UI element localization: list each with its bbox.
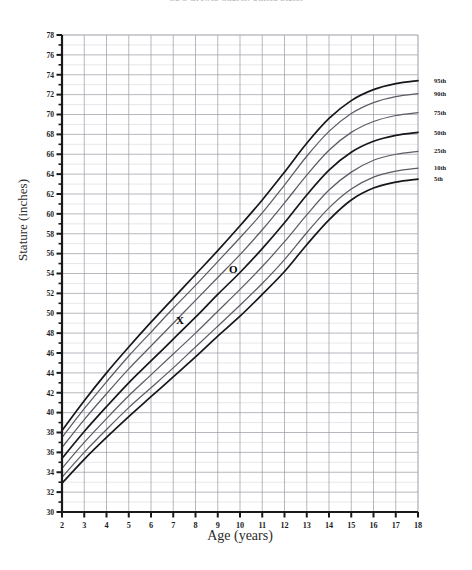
percentile-label-90th: 90th bbox=[434, 90, 447, 97]
percentile-legend-labels: 95th90th75th50th25th10th5th bbox=[434, 77, 447, 182]
y-tick-label: 68 bbox=[46, 130, 54, 139]
x-tick-label: 17 bbox=[392, 521, 400, 530]
x-tick-label: 13 bbox=[303, 521, 311, 530]
percentile-label-25th: 25th bbox=[434, 147, 447, 154]
y-tick-label: 50 bbox=[46, 309, 54, 318]
x-tick-label: 15 bbox=[347, 521, 355, 530]
data-point-o[interactable]: O bbox=[229, 263, 238, 275]
x-tick-label: 2 bbox=[60, 521, 64, 530]
x-tick-label: 7 bbox=[171, 521, 175, 530]
x-tick-label: 10 bbox=[236, 521, 244, 530]
y-tick-label: 58 bbox=[46, 230, 54, 239]
y-tick-label: 60 bbox=[46, 210, 54, 219]
y-tick-label: 30 bbox=[46, 508, 54, 517]
percentile-label-75th: 75th bbox=[434, 109, 447, 116]
y-tick-label: 56 bbox=[46, 249, 54, 258]
x-tick-label: 12 bbox=[280, 521, 288, 530]
percentile-label-50th: 50th bbox=[434, 129, 447, 136]
x-tick-label: 6 bbox=[149, 521, 153, 530]
x-tick-label: 3 bbox=[82, 521, 86, 530]
percentile-label-95th: 95th bbox=[434, 77, 447, 84]
y-tick-label: 44 bbox=[46, 369, 54, 378]
x-tick-label: 11 bbox=[258, 521, 266, 530]
y-tick-label: 72 bbox=[46, 90, 54, 99]
y-tick-label: 38 bbox=[46, 428, 54, 437]
growth-chart: CDC Growth Charts: United States Stature… bbox=[0, 0, 472, 570]
x-tick-label: 18 bbox=[414, 521, 422, 530]
data-point-x[interactable]: X bbox=[176, 314, 184, 326]
x-tick-label: 4 bbox=[104, 521, 108, 530]
x-tick-label: 16 bbox=[369, 521, 377, 530]
x-tick-label: 8 bbox=[193, 521, 197, 530]
percentile-label-5th: 5th bbox=[434, 175, 443, 182]
x-tick-label: 5 bbox=[127, 521, 131, 530]
x-tick-label: 9 bbox=[216, 521, 220, 530]
y-tick-label: 52 bbox=[46, 289, 54, 298]
x-tick-labels: 23456789101112131415161718 bbox=[60, 521, 422, 530]
y-tick-label: 54 bbox=[46, 269, 54, 278]
x-tick-label: 14 bbox=[325, 521, 333, 530]
y-tick-label: 42 bbox=[46, 389, 54, 398]
y-tick-labels: 3032343638404244464850525456586062646668… bbox=[46, 31, 54, 517]
percentile-label-10th: 10th bbox=[434, 164, 447, 171]
y-tick-label: 34 bbox=[46, 468, 54, 477]
y-tick-label: 62 bbox=[46, 190, 54, 199]
data-point-glyph: O bbox=[229, 263, 238, 275]
y-tick-label: 74 bbox=[46, 71, 54, 80]
data-point-glyph: X bbox=[176, 314, 184, 326]
y-tick-label: 66 bbox=[46, 150, 54, 159]
y-tick-label: 40 bbox=[46, 408, 54, 417]
y-tick-label: 36 bbox=[46, 448, 54, 457]
y-tick-label: 48 bbox=[46, 329, 54, 338]
y-tick-label: 64 bbox=[46, 170, 54, 179]
y-tick-label: 46 bbox=[46, 349, 54, 358]
y-tick-label: 78 bbox=[46, 31, 54, 40]
y-tick-label: 76 bbox=[46, 51, 54, 60]
plot-svg: 3032343638404244464850525456586062646668… bbox=[0, 0, 472, 570]
y-tick-label: 70 bbox=[46, 110, 54, 119]
y-tick-label: 32 bbox=[46, 488, 54, 497]
